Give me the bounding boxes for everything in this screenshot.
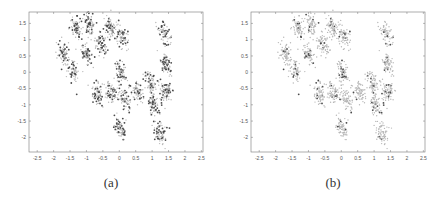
x-tick-label: 2.5 [420,155,427,161]
y-tick-label: 1 [245,36,248,42]
x-tick-label: 1.5 [165,155,172,161]
y-tick-label: 1 [23,36,26,42]
x-tick-label: 0 [118,155,121,161]
y-tick-label: 0.5 [19,53,26,59]
y-tick-label: -2 [244,134,249,140]
x-tick-label: -0.5 [321,155,330,161]
y-tick-label: 0 [23,69,26,75]
x-tick-label: 1 [151,155,154,161]
y-tick-label: -0.5 [17,85,26,91]
x-tick-label: -1.5 [66,155,75,161]
scatter-panel-b: -2.5-2-1.5-1-0.500.511.522.51.510.50-0.5… [222,0,444,201]
x-tick-label: 0 [340,155,343,161]
x-tick-label: 2.5 [198,155,205,161]
x-tick-label: -2 [51,155,56,161]
y-tick-label: -1 [22,102,27,108]
x-tick-label: -2 [273,155,278,161]
x-tick-label: 2 [406,155,409,161]
x-tick-label: 0.5 [354,155,361,161]
x-tick-label: 1 [373,155,376,161]
y-tick-label: -1.5 [17,118,26,124]
x-tick-label: 2 [184,155,187,161]
y-tick-label: 1.5 [19,20,26,26]
y-tick-label: 0.5 [241,53,248,59]
x-tick-label: -1 [84,155,89,161]
scatter-plot-b: -2.5-2-1.5-1-0.500.511.522.51.510.50-0.5… [222,0,444,201]
y-tick-label: -0.5 [239,85,248,91]
x-tick-label: -2.5 [33,155,42,161]
x-tick-label: -2.5 [255,155,264,161]
scatter-panel-a: -2.5-2-1.5-1-0.500.511.522.51.510.50-0.5… [0,0,222,201]
scatter-plot-a: -2.5-2-1.5-1-0.500.511.522.51.510.50-0.5… [0,0,222,201]
x-tick-label: 1.5 [387,155,394,161]
axes-box [251,12,425,152]
x-tick-label: 0.5 [132,155,139,161]
y-tick-label: -1.5 [239,118,248,124]
y-tick-label: -1 [244,102,249,108]
x-tick-label: -1 [306,155,311,161]
y-tick-label: 1.5 [241,20,248,26]
axes-box [29,12,203,152]
caption-a: (a) [0,175,222,191]
caption-b: (b) [222,175,444,191]
x-tick-label: -1.5 [288,155,297,161]
x-tick-label: -0.5 [99,155,108,161]
y-tick-label: -2 [22,134,27,140]
y-tick-label: 0 [245,69,248,75]
